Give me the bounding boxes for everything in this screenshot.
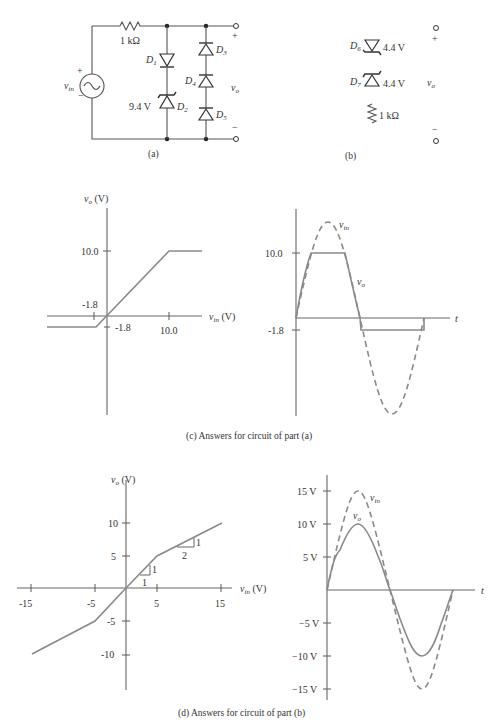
y-tick-label: 10 V [297,519,317,530]
circuit-a: 1 kΩ + − vin D1 9.4 V D2 D3 D4 D5 [64,22,239,160]
y-tick-label: -5 [107,616,115,627]
sine-glyph-icon [84,83,100,90]
left-bottom-wire-a [92,26,236,139]
y-tick-label: -10 [101,649,114,660]
output-terminal-plus-a [234,24,239,29]
y-axis-label: vo (V) [111,474,135,487]
zener-d7-voltage: 4.4 V [383,78,406,89]
caption-b: (b) [345,151,356,162]
diode-d5-label: D5 [215,109,227,122]
slope-run-2: 2 [182,550,187,561]
diode-d2-label: D2 [176,101,188,114]
y-tick-label: 5 [111,551,116,562]
source-a-plus: + [77,65,83,76]
diode-d4-icon [199,76,213,87]
y-tick-label: -1.8 [82,299,98,310]
vo-label: vo [357,276,365,289]
y-tick-label: 10 [108,518,118,529]
vin-label: vin [370,492,380,505]
diode-d1-icon [160,54,174,66]
source-a-label: vin [64,80,74,93]
x-tick-label: -1.8 [115,322,131,333]
chart-d-transfer: 1 1 2 1 vo (V) 10 5 -5 -10 -15 -5 5 15 v… [17,474,266,690]
y-axis-label: vo (V) [84,193,108,206]
x-tick-label: 5 [154,598,159,609]
out-minus-b: − [432,124,438,135]
slope-rise-2: 1 [196,537,201,548]
diode-d4-label: D4 [184,75,196,88]
y-tick-label: −15 V [292,684,318,695]
x-tick-label: 15 [215,598,225,609]
zener-d6-icon [365,40,379,51]
chart-d-waveform: 15 V 10 V 5 V −5 V −10 V −15 V t vin vo [292,475,484,700]
output-b-label: vo [427,77,435,90]
y-tick-label: -1.8 [268,325,284,336]
zener-d6-voltage: 4.4 V [383,42,406,53]
y-tick-label: 15 V [297,486,317,497]
diode-d6-label: D6 [349,40,361,53]
zener-d2-icon [160,96,174,108]
zener-d7-icon [365,75,379,86]
y-tick-label: −5 V [299,618,320,629]
source-a-minus: − [78,90,84,101]
caption-c: (c) Answers for circuit of part (a) [186,431,312,442]
chart-c-waveform: 10.0 -1.8 t vin vo [265,209,458,416]
resistor-a-symbol [120,22,142,30]
x-axis-label: vin (V) [240,583,266,596]
out-plus-b: + [432,33,438,44]
resistor-a-label: 1 kΩ [120,35,140,46]
x-tick-label: 10.0 [160,325,178,336]
diode-d5-icon [199,109,213,120]
y-tick-label: −10 V [292,651,318,662]
output-terminal-minus-b [434,139,439,144]
diode-d3-icon [199,44,213,55]
caption-d: (d) Answers for circuit of part (b) [178,708,305,719]
chart-c-transfer: vo (V) 10.0 -1.8 -1.8 10.0 vin (V) [47,193,235,415]
y-tick-label: 10.0 [81,246,99,257]
x-axis-label: vin (V) [209,311,235,324]
diode-d1-label: D1 [145,54,157,67]
slope-run-1: 1 [142,577,147,588]
figure-canvas: 1 kΩ + − vin D1 9.4 V D2 D3 D4 D5 [0,0,498,723]
y-tick-label: 5 V [303,552,318,563]
output-terminal-plus-b [434,26,439,31]
output-terminal-minus-a [234,137,239,142]
t-axis-label: t [481,585,484,596]
zener-d2-voltage: 9.4 V [129,101,152,112]
x-tick-label: -15 [19,598,32,609]
x-tick-label: -5 [87,598,95,609]
slope-triangle-1 [140,565,150,575]
slope-rise-1: 1 [152,564,157,575]
t-axis-label: t [455,313,458,324]
diode-d3-label: D3 [215,44,227,57]
output-a-label: vo [231,82,239,95]
resistor-b-bottom-symbol [368,104,376,123]
vo-label: vo [353,510,361,523]
y-tick-label: 10.0 [265,248,283,259]
vin-label: vin [339,219,349,232]
caption-a: (a) [148,149,159,160]
diode-d7-label: D7 [349,76,361,89]
resistor-b-bottom-label: 1 kΩ [379,110,399,121]
out-plus-a: + [232,30,238,41]
out-minus-a: − [232,122,238,133]
